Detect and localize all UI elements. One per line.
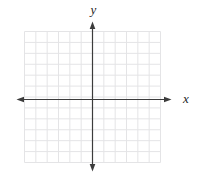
coordinate-plane-figure: x y bbox=[0, 0, 197, 189]
x-axis-right-arrow-icon bbox=[164, 97, 172, 103]
y-axis-top-arrow-icon bbox=[90, 22, 96, 30]
coordinate-plane-canvas: x y bbox=[0, 0, 197, 189]
y-axis-label: y bbox=[89, 2, 97, 17]
x-axis-left-arrow-icon bbox=[17, 97, 25, 103]
y-axis-bottom-arrow-icon bbox=[90, 164, 96, 172]
x-axis-label: x bbox=[182, 91, 189, 106]
